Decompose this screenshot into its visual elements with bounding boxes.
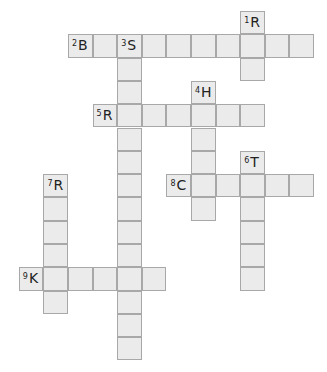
clue-start-label: 8C (170, 176, 186, 194)
crossword-cell[interactable] (240, 267, 265, 290)
crossword-cell[interactable] (166, 104, 191, 127)
clue-letter: R (250, 14, 260, 30)
crossword-cell[interactable] (117, 81, 142, 104)
crossword-cell[interactable] (117, 314, 142, 337)
clue-number: 7 (47, 179, 52, 188)
clue-number: 1 (244, 16, 249, 25)
crossword-cell[interactable] (191, 197, 216, 220)
clue-start-label: 2B (72, 36, 88, 54)
crossword-cell[interactable]: 4H (191, 81, 216, 104)
clue-letter: K (29, 270, 38, 286)
clue-start-label: 4H (195, 83, 212, 101)
crossword-cell[interactable] (240, 34, 265, 57)
crossword-cell[interactable] (117, 197, 142, 220)
crossword-cell[interactable] (240, 221, 265, 244)
crossword-cell[interactable] (43, 267, 68, 290)
crossword-cell[interactable] (240, 197, 265, 220)
clue-letter: H (201, 84, 212, 100)
clue-number: 2 (72, 39, 77, 48)
clue-letter: R (53, 177, 63, 193)
clue-number: 8 (170, 179, 175, 188)
crossword-cell[interactable] (142, 267, 167, 290)
clue-letter: B (78, 37, 88, 53)
crossword-cell[interactable]: 3S (117, 34, 142, 57)
crossword-cell[interactable] (117, 151, 142, 174)
crossword-cell[interactable] (117, 58, 142, 81)
crossword-cell[interactable]: 1R (240, 11, 265, 34)
clue-number: 6 (244, 156, 249, 165)
crossword-cell[interactable] (289, 174, 314, 197)
crossword-cell[interactable]: 8C (166, 174, 191, 197)
crossword-cell[interactable] (240, 58, 265, 81)
clue-start-label: 1R (244, 13, 260, 31)
crossword-cell[interactable] (191, 104, 216, 127)
clue-letter: T (250, 154, 259, 170)
crossword-cell[interactable] (191, 34, 216, 57)
crossword-cell[interactable] (117, 337, 142, 360)
crossword-grid: 1R2B3S4H5R6T7R8C9K (0, 0, 327, 372)
clue-letter: S (127, 37, 136, 53)
crossword-cell[interactable]: 2B (68, 34, 93, 57)
crossword-cell[interactable] (216, 104, 241, 127)
clue-number: 4 (195, 86, 200, 95)
crossword-cell[interactable] (240, 244, 265, 267)
clue-letter: R (103, 107, 113, 123)
crossword-cell[interactable] (289, 34, 314, 57)
clue-start-label: 5R (97, 106, 113, 124)
clue-start-label: 6T (244, 153, 259, 171)
crossword-cell[interactable] (216, 34, 241, 57)
crossword-cell[interactable] (43, 197, 68, 220)
clue-letter: C (176, 177, 186, 193)
crossword-cell[interactable]: 5R (93, 104, 118, 127)
crossword-cell[interactable]: 9K (19, 267, 44, 290)
crossword-cell[interactable] (265, 174, 290, 197)
crossword-cell[interactable] (43, 244, 68, 267)
crossword-cell[interactable] (191, 128, 216, 151)
crossword-cell[interactable] (43, 221, 68, 244)
crossword-cell[interactable] (166, 34, 191, 57)
crossword-cell[interactable] (93, 34, 118, 57)
crossword-cell[interactable] (117, 244, 142, 267)
clue-number: 3 (121, 39, 126, 48)
crossword-cell[interactable] (240, 174, 265, 197)
crossword-cell[interactable] (265, 34, 290, 57)
crossword-cell[interactable] (142, 34, 167, 57)
crossword-cell[interactable] (191, 174, 216, 197)
crossword-cell[interactable] (93, 267, 118, 290)
clue-start-label: 7R (47, 176, 63, 194)
crossword-cell[interactable] (191, 151, 216, 174)
crossword-cell[interactable] (43, 291, 68, 314)
crossword-cell[interactable] (117, 291, 142, 314)
clue-number: 5 (97, 109, 102, 118)
crossword-cell[interactable] (117, 128, 142, 151)
clue-start-label: 9K (23, 269, 38, 287)
crossword-cell[interactable] (117, 174, 142, 197)
crossword-cell[interactable]: 6T (240, 151, 265, 174)
crossword-cell[interactable] (68, 267, 93, 290)
crossword-cell[interactable] (240, 104, 265, 127)
clue-number: 9 (23, 272, 28, 281)
crossword-cell[interactable] (117, 221, 142, 244)
crossword-cell[interactable] (142, 104, 167, 127)
crossword-cell[interactable]: 7R (43, 174, 68, 197)
crossword-cell[interactable] (117, 267, 142, 290)
crossword-cell[interactable] (216, 174, 241, 197)
crossword-cell[interactable] (117, 104, 142, 127)
clue-start-label: 3S (121, 36, 136, 54)
